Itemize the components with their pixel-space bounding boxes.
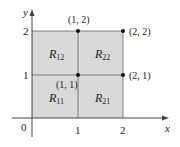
point-2-1-label: (2, 1) <box>129 70 151 82</box>
x-tick-1: 1 <box>75 124 81 136</box>
x-axis-label: x <box>164 122 170 134</box>
origin-label: 0 <box>21 121 27 133</box>
point-2-1 <box>121 73 125 77</box>
point-1-1 <box>76 73 80 77</box>
y-axis-label: y <box>22 6 28 18</box>
point-1-2 <box>76 29 80 33</box>
point-1-2-label: (1, 2) <box>68 14 90 26</box>
x-tick-2: 2 <box>120 124 126 136</box>
rectangle-partition-diagram: x y 0 1 2 1 2 R12 R22 R11 R21 (1, 1) (1,… <box>0 0 180 147</box>
point-2-2-label: (2, 2) <box>129 26 151 38</box>
x-axis-arrow-icon <box>162 116 169 121</box>
point-1-1-label: (1, 1) <box>56 79 78 91</box>
point-2-2 <box>121 29 125 33</box>
y-tick-2: 2 <box>23 25 29 37</box>
y-tick-1: 1 <box>23 69 29 81</box>
y-axis-arrow-icon <box>30 9 35 16</box>
